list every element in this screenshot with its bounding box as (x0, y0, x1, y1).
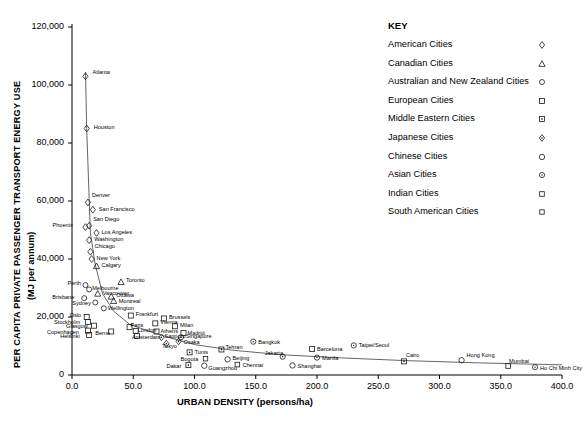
data-point-label: Sydney (72, 300, 91, 306)
data-point-label: Guangzhou (208, 365, 237, 371)
data-point-marker (203, 357, 207, 361)
data-point-label: Oslo (70, 312, 82, 318)
data-point-label: San Diego (93, 216, 119, 222)
legend-marker-triangle-icon (535, 57, 549, 70)
legend-item-label: Middle Eastern Cities (388, 113, 475, 123)
data-point-marker (128, 313, 133, 318)
legend-item-label: European Cities (388, 95, 453, 105)
data-point-label: Houston (94, 124, 115, 130)
legend-marker-square-dot-icon (535, 112, 549, 125)
data-point-label: Sapporo (164, 333, 185, 339)
data-point-label: San Francisco (99, 206, 135, 212)
data-point-label: Atlanta (92, 69, 109, 75)
legend-title: KEY (388, 20, 563, 31)
data-point-label: Bangkok (258, 339, 280, 345)
data-point-marker (84, 315, 89, 320)
data-point-label: Washington (94, 236, 123, 242)
legend-item-indian: Indian Cities (388, 187, 563, 206)
legend-item-japanese: Japanese Cities (388, 131, 563, 150)
data-point-label: Frankfurt (136, 311, 158, 317)
data-point-label: New York (97, 255, 121, 261)
data-point-marker (532, 365, 537, 370)
legend-item-mideast: Middle Eastern Cities (388, 112, 563, 131)
data-point-label: Chicago (94, 243, 115, 249)
data-point-marker (101, 306, 106, 311)
data-point-label: Phoenix (52, 222, 72, 228)
legend-item-canadian: Canadian Cities (388, 57, 563, 76)
legend-item-american: American Cities (388, 38, 563, 57)
data-point-marker (314, 355, 319, 360)
legend-marker-circle-dot-icon (535, 168, 549, 181)
data-point-marker (118, 279, 124, 285)
data-point-marker (92, 323, 97, 328)
data-point-marker (202, 363, 207, 368)
data-point-marker (219, 347, 224, 352)
legend-item-asian: Asian Cities (388, 168, 563, 187)
data-point-marker (93, 300, 98, 305)
legend-item-label: Asian Cities (388, 169, 437, 179)
data-point-label: Osaka (184, 339, 200, 345)
data-point-marker (87, 287, 92, 292)
data-point-label: Hong Kong (467, 352, 495, 358)
data-point-label: Shanghai (298, 363, 322, 369)
data-point-label: London (138, 327, 157, 333)
data-point-marker (251, 339, 256, 344)
data-point-label: Milan (180, 322, 193, 328)
legend-item-label: Canadian Cities (388, 58, 453, 68)
data-point-label: Taipei/Seoul (359, 342, 389, 348)
data-point-marker (90, 206, 95, 213)
legend-item-label: South American Cities (388, 206, 478, 216)
data-point-marker (290, 363, 295, 368)
legend-item-anzac: Australian and New Zealand Cities (388, 75, 563, 94)
data-point-marker (153, 321, 158, 326)
data-point-label: Cairo (406, 352, 419, 358)
legend-marker-circle-icon (535, 75, 549, 88)
data-point-label: Tunis (195, 349, 208, 355)
legend-item-chinese: Chinese Cities (388, 150, 563, 169)
legend-marker-diamond-icon (535, 38, 549, 51)
data-point-label: Perth (67, 280, 80, 286)
legend-marker-square-tiny-icon (535, 205, 549, 218)
data-point-marker (401, 359, 406, 364)
data-point-label: Brisbane (52, 294, 74, 300)
data-point-label: Barcelona (317, 346, 342, 352)
data-point-label: Tehran (225, 344, 242, 350)
data-point-label: Los Angeles (102, 229, 132, 235)
data-point-label: Montreal (119, 298, 141, 304)
legend-item-european: European Cities (388, 94, 563, 113)
data-point-marker (187, 350, 192, 355)
data-point-label: Vienna (160, 319, 177, 325)
legend-item-label: Chinese Cities (388, 151, 447, 161)
legend-marker-square-icon (535, 94, 549, 107)
data-point-marker (351, 343, 356, 348)
legend-item-label: American Cities (388, 39, 452, 49)
data-point-label: Calgary (102, 262, 121, 268)
legend-marker-circle-open-icon (535, 150, 549, 163)
data-point-label: Bogota (181, 356, 199, 362)
legend-item-label: Indian Cities (388, 188, 439, 198)
data-point-marker (83, 283, 88, 288)
data-point-marker (506, 364, 511, 369)
legend-item-label: Japanese Cities (388, 132, 453, 142)
legend-item-southamerican: South American Cities (388, 205, 563, 224)
legend-item-label: Australian and New Zealand Cities (388, 76, 529, 86)
data-point-label: Jakarta (265, 350, 283, 356)
data-point-label: Tokyo (162, 343, 177, 349)
data-point-label: Beijing (233, 355, 250, 361)
x-axis-title: URBAN DENSITY (persons/ha) (30, 396, 460, 407)
data-point-label: Toronto (126, 277, 145, 283)
legend: KEY American CitiesCanadian CitiesAustra… (388, 20, 563, 224)
data-point-label: Denver (92, 192, 110, 198)
data-point-marker (89, 256, 94, 263)
data-point-label: Manila (322, 355, 338, 361)
legend-marker-diamond-dot-icon (535, 131, 549, 144)
data-point-label: Berne (95, 330, 110, 336)
data-point-marker (310, 346, 315, 351)
data-point-marker (225, 357, 230, 362)
data-point-label: Wellington (108, 305, 134, 311)
data-point-label: Ottawa (116, 292, 134, 298)
data-point-label: Ho Chi Minh City (540, 365, 582, 371)
data-point-label: Amsterdam (132, 334, 161, 340)
legend-marker-square-small-icon (535, 187, 549, 200)
